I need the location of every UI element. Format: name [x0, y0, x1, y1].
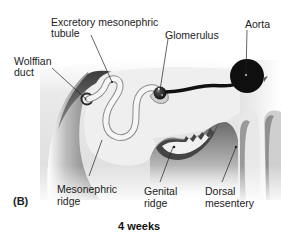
- label-dorsal-mesentery-1: Dorsal: [205, 186, 235, 197]
- label-excretory-tubule-2: tubule: [51, 28, 80, 39]
- figure-caption: 4 weeks: [118, 220, 160, 232]
- embryo-cross-section-diagram: Excretory mesonephric tubule Glomerulus …: [0, 0, 281, 234]
- label-mesonephric-ridge-2: ridge: [57, 196, 80, 207]
- label-genital-ridge-2: ridge: [144, 198, 167, 209]
- label-genital-ridge-1: Genital: [144, 186, 177, 197]
- label-dorsal-mesentery-2: mesentery: [205, 198, 254, 209]
- panel-label: (B): [13, 195, 28, 207]
- label-wolffian-2: duct: [14, 67, 34, 78]
- label-glomerulus: Glomerulus: [165, 30, 219, 41]
- label-aorta: Aorta: [245, 19, 270, 30]
- label-mesonephric-ridge-1: Mesonephric: [57, 184, 117, 195]
